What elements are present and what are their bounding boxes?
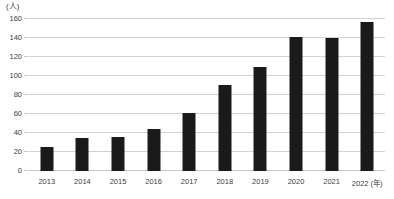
x-axis-tick-label: 2022 (年) <box>352 177 383 188</box>
y-axis-tick <box>24 94 28 95</box>
bar <box>361 22 374 171</box>
x-axis-tick-label: 2020 <box>288 177 305 186</box>
x-axis-tick-label: 2015 <box>110 177 127 186</box>
x-axis-tick-label: 2013 <box>38 177 55 186</box>
x-axis-tick-label: 2021 <box>323 177 340 186</box>
x-axis-tick-label: 2017 <box>181 177 198 186</box>
y-axis-tick <box>24 113 28 114</box>
plot-area: 020406080100120140160 201320142015201620… <box>29 19 385 171</box>
y-axis-tick-label: 140 <box>9 33 22 42</box>
x-axis-tick-label: 2018 <box>216 177 233 186</box>
y-axis-unit-label: (人) <box>6 2 19 12</box>
bar <box>147 129 160 171</box>
bar-group: 2016 <box>136 19 172 171</box>
bar-group: 2022 (年) <box>349 19 385 171</box>
bar <box>218 85 231 171</box>
y-axis-tick <box>24 151 28 152</box>
bar <box>40 147 53 171</box>
y-axis-tick-label: 60 <box>14 109 22 118</box>
y-axis-tick <box>24 56 28 57</box>
y-axis-tick-label: 160 <box>9 14 22 23</box>
y-axis-tick-label: 20 <box>14 147 22 156</box>
y-axis-tick <box>24 37 28 38</box>
y-axis-tick-label: 120 <box>9 52 22 61</box>
bar-group: 2015 <box>100 19 136 171</box>
bar <box>183 113 196 171</box>
bar-group: 2018 <box>207 19 243 171</box>
bar-group: 2017 <box>171 19 207 171</box>
y-axis-tick-label: 40 <box>14 128 22 137</box>
bar-group: 2021 <box>314 19 350 171</box>
y-axis-tick-label: 100 <box>9 71 22 80</box>
bar-group: 2013 <box>29 19 65 171</box>
x-axis-tick-label: 2016 <box>145 177 162 186</box>
bar <box>111 137 124 171</box>
bar-group: 2019 <box>243 19 279 171</box>
x-axis-tick-label: 2019 <box>252 177 269 186</box>
y-axis-tick <box>24 18 28 19</box>
y-axis-tick <box>24 170 28 171</box>
bar-group: 2020 <box>278 19 314 171</box>
bar <box>76 138 89 171</box>
bar-chart: (人) 020406080100120140160 20132014201520… <box>0 0 394 199</box>
y-axis-tick-label: 80 <box>14 90 22 99</box>
bar-group: 2014 <box>65 19 101 171</box>
bar <box>325 38 338 171</box>
x-axis-tick-label: 2014 <box>74 177 91 186</box>
bar <box>289 37 302 171</box>
y-axis-tick-label: 0 <box>18 166 22 175</box>
bar <box>254 67 267 171</box>
bar-series: 2013201420152016201720182019202020212022… <box>29 19 385 171</box>
y-axis-tick <box>24 75 28 76</box>
y-axis-tick <box>24 132 28 133</box>
